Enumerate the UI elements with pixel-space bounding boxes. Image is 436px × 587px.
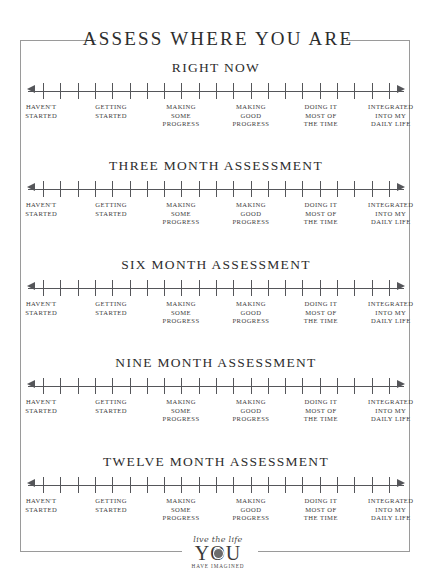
scale-tick[interactable] bbox=[302, 378, 303, 394]
scale-tick[interactable] bbox=[216, 83, 217, 99]
scale-tick[interactable] bbox=[354, 181, 355, 197]
scale-tick[interactable] bbox=[372, 181, 373, 197]
scale-tick[interactable] bbox=[78, 280, 79, 296]
scale-tick[interactable] bbox=[181, 280, 182, 296]
scale-tick[interactable] bbox=[60, 378, 61, 394]
scale-tick[interactable] bbox=[130, 280, 131, 296]
rating-scale[interactable] bbox=[28, 377, 404, 395]
scale-tick[interactable] bbox=[199, 477, 200, 493]
scale-tick[interactable] bbox=[233, 378, 234, 394]
scale-tick[interactable] bbox=[78, 181, 79, 197]
scale-tick[interactable] bbox=[389, 83, 390, 99]
scale-tick[interactable] bbox=[181, 477, 182, 493]
scale-tick[interactable] bbox=[164, 477, 165, 493]
scale-tick[interactable] bbox=[337, 181, 338, 197]
scale-tick[interactable] bbox=[233, 83, 234, 99]
scale-tick[interactable] bbox=[43, 181, 44, 197]
scale-tick[interactable] bbox=[389, 280, 390, 296]
scale-tick[interactable] bbox=[147, 181, 148, 197]
scale-tick[interactable] bbox=[95, 280, 96, 296]
scale-tick[interactable] bbox=[60, 477, 61, 493]
scale-tick[interactable] bbox=[285, 181, 286, 197]
scale-tick[interactable] bbox=[302, 181, 303, 197]
scale-tick[interactable] bbox=[251, 378, 252, 394]
scale-tick[interactable] bbox=[43, 378, 44, 394]
scale-tick[interactable] bbox=[233, 477, 234, 493]
scale-tick[interactable] bbox=[199, 83, 200, 99]
scale-tick[interactable] bbox=[372, 83, 373, 99]
scale-tick[interactable] bbox=[268, 477, 269, 493]
scale-tick[interactable] bbox=[95, 378, 96, 394]
scale-tick[interactable] bbox=[130, 181, 131, 197]
scale-tick[interactable] bbox=[251, 280, 252, 296]
scale-tick[interactable] bbox=[43, 280, 44, 296]
scale-tick[interactable] bbox=[268, 378, 269, 394]
rating-scale[interactable] bbox=[28, 82, 404, 100]
scale-tick[interactable] bbox=[233, 181, 234, 197]
scale-tick[interactable] bbox=[112, 181, 113, 197]
scale-tick[interactable] bbox=[372, 280, 373, 296]
scale-tick[interactable] bbox=[216, 477, 217, 493]
scale-tick[interactable] bbox=[372, 378, 373, 394]
scale-tick[interactable] bbox=[233, 280, 234, 296]
scale-tick[interactable] bbox=[147, 378, 148, 394]
scale-tick[interactable] bbox=[216, 181, 217, 197]
scale-tick[interactable] bbox=[285, 83, 286, 99]
scale-tick[interactable] bbox=[60, 280, 61, 296]
scale-tick[interactable] bbox=[302, 477, 303, 493]
scale-tick[interactable] bbox=[354, 477, 355, 493]
scale-tick[interactable] bbox=[372, 477, 373, 493]
scale-tick[interactable] bbox=[164, 181, 165, 197]
scale-tick[interactable] bbox=[181, 378, 182, 394]
scale-tick[interactable] bbox=[216, 280, 217, 296]
scale-tick[interactable] bbox=[337, 83, 338, 99]
scale-tick[interactable] bbox=[268, 280, 269, 296]
scale-tick[interactable] bbox=[95, 83, 96, 99]
scale-tick[interactable] bbox=[320, 181, 321, 197]
scale-tick[interactable] bbox=[60, 181, 61, 197]
scale-tick[interactable] bbox=[164, 83, 165, 99]
scale-tick[interactable] bbox=[320, 477, 321, 493]
scale-tick[interactable] bbox=[112, 378, 113, 394]
scale-tick[interactable] bbox=[130, 378, 131, 394]
scale-tick[interactable] bbox=[320, 83, 321, 99]
scale-tick[interactable] bbox=[199, 280, 200, 296]
scale-tick[interactable] bbox=[43, 83, 44, 99]
scale-tick[interactable] bbox=[147, 477, 148, 493]
scale-tick[interactable] bbox=[337, 378, 338, 394]
scale-tick[interactable] bbox=[268, 181, 269, 197]
scale-tick[interactable] bbox=[147, 280, 148, 296]
scale-tick[interactable] bbox=[285, 477, 286, 493]
scale-tick[interactable] bbox=[181, 181, 182, 197]
scale-tick[interactable] bbox=[199, 181, 200, 197]
scale-tick[interactable] bbox=[60, 83, 61, 99]
scale-tick[interactable] bbox=[285, 378, 286, 394]
scale-tick[interactable] bbox=[302, 280, 303, 296]
scale-tick[interactable] bbox=[389, 181, 390, 197]
scale-tick[interactable] bbox=[112, 83, 113, 99]
rating-scale[interactable] bbox=[28, 476, 404, 494]
rating-scale[interactable] bbox=[28, 180, 404, 198]
scale-tick[interactable] bbox=[112, 280, 113, 296]
scale-tick[interactable] bbox=[354, 280, 355, 296]
scale-tick[interactable] bbox=[251, 83, 252, 99]
scale-tick[interactable] bbox=[216, 378, 217, 394]
scale-tick[interactable] bbox=[354, 378, 355, 394]
scale-tick[interactable] bbox=[268, 83, 269, 99]
scale-tick[interactable] bbox=[78, 83, 79, 99]
scale-tick[interactable] bbox=[320, 280, 321, 296]
scale-tick[interactable] bbox=[181, 83, 182, 99]
scale-tick[interactable] bbox=[285, 280, 286, 296]
scale-tick[interactable] bbox=[130, 83, 131, 99]
rating-scale[interactable] bbox=[28, 279, 404, 297]
scale-tick[interactable] bbox=[164, 280, 165, 296]
scale-tick[interactable] bbox=[251, 477, 252, 493]
scale-tick[interactable] bbox=[95, 477, 96, 493]
scale-tick[interactable] bbox=[95, 181, 96, 197]
scale-tick[interactable] bbox=[251, 181, 252, 197]
scale-tick[interactable] bbox=[320, 378, 321, 394]
scale-tick[interactable] bbox=[337, 280, 338, 296]
scale-tick[interactable] bbox=[389, 477, 390, 493]
scale-tick[interactable] bbox=[337, 477, 338, 493]
scale-tick[interactable] bbox=[164, 378, 165, 394]
